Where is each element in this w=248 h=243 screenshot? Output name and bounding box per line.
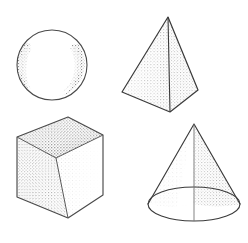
- sphere-highlight: [32, 37, 64, 89]
- solids-svg: [0, 0, 248, 243]
- solids-illustration-canvas: Geometric Solids Illustration Sphere Squ…: [0, 0, 248, 243]
- shape-sphere: [16, 30, 87, 100]
